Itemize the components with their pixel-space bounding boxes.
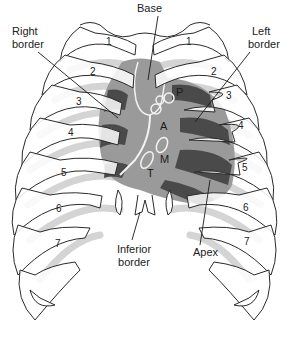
label-pulmonary-valve: P <box>176 86 183 98</box>
label-inferior-border-line2: border <box>109 256 159 269</box>
label-aortic-valve: A <box>160 120 167 132</box>
rib-number-right-4: 4 <box>68 127 74 138</box>
label-right-border-line1: Right <box>12 25 38 38</box>
rib-number-right-7: 7 <box>55 238 61 249</box>
label-inferior-border-line1: Inferior <box>109 243 159 256</box>
label-left-border-line2: border <box>248 38 280 51</box>
label-left-border-line1: Left <box>252 25 270 38</box>
rib-number-right-3: 3 <box>76 96 82 107</box>
rib-number-left-6: 6 <box>243 202 249 213</box>
label-apex: Apex <box>193 246 218 259</box>
rib-number-right-6: 6 <box>56 203 62 214</box>
rib-number-left-4: 4 <box>238 120 244 131</box>
rib-number-left-5: 5 <box>242 162 248 173</box>
rib-number-left-7: 7 <box>244 236 250 247</box>
rib-number-left-2: 2 <box>211 66 217 77</box>
rib-number-right-5: 5 <box>61 167 67 178</box>
rib-number-right-2: 2 <box>90 66 96 77</box>
rib-number-left-3: 3 <box>226 90 232 101</box>
label-tricuspid-valve: T <box>147 167 154 179</box>
label-right-border-line2: border <box>12 38 44 51</box>
label-base: Base <box>137 2 162 15</box>
heart-rib-cage-diagram: Base Right border Left border Inferior b… <box>0 0 289 342</box>
rib-number-left-1: 1 <box>186 36 192 47</box>
rib-number-right-1: 1 <box>106 36 112 47</box>
inferior-border-leader-line <box>132 212 140 240</box>
label-mitral-valve: M <box>160 153 169 165</box>
